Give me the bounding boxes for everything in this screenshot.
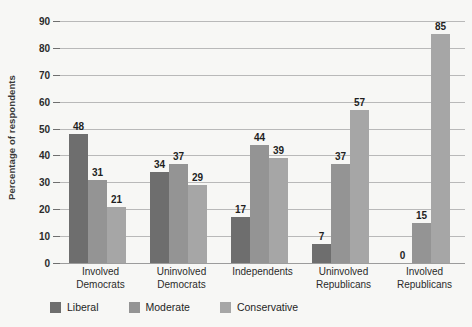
y-tick-mark — [53, 155, 60, 156]
y-tick-label: 0 — [44, 258, 50, 269]
legend-item[interactable]: Moderate — [129, 301, 190, 313]
y-tick-mark — [53, 102, 60, 103]
y-tick-mark — [53, 21, 60, 22]
bar-chart: Percentage of respondents 01020304050607… — [0, 0, 472, 327]
legend-label: Liberal — [67, 301, 99, 313]
legend-item[interactable]: Conservative — [220, 301, 298, 313]
legend-item[interactable]: Liberal — [50, 301, 99, 313]
y-tick-mark — [53, 75, 60, 76]
bar: 39 — [269, 158, 288, 263]
bar-group: 174439 — [231, 21, 288, 263]
bar-value-label: 0 — [400, 250, 406, 261]
bar-value-label: 17 — [235, 204, 246, 215]
bar-value-label: 37 — [173, 151, 184, 162]
x-axis-labels: InvolvedDemocratsUninvolvedDemocratsInde… — [60, 265, 465, 297]
y-tick-label: 60 — [39, 96, 50, 107]
bar-value-label: 31 — [92, 167, 103, 178]
bar-value-label: 7 — [319, 231, 325, 242]
bar: 31 — [88, 180, 107, 263]
bar: 37 — [331, 164, 350, 263]
y-tick-mark — [53, 236, 60, 237]
y-tick-label: 20 — [39, 204, 50, 215]
x-axis-label: UninvolvedRepublicans — [303, 265, 384, 291]
plot-area: 0102030405060708090 48312134372917443973… — [60, 21, 465, 263]
bar: 85 — [431, 34, 450, 263]
bar-value-label: 44 — [254, 132, 265, 143]
bar: 21 — [107, 207, 126, 263]
bar: 34 — [150, 172, 169, 263]
bar-value-label: 37 — [335, 151, 346, 162]
bar-group: 483121 — [69, 21, 126, 263]
legend-label: Moderate — [146, 301, 190, 313]
bar-group: 343729 — [150, 21, 207, 263]
x-axis-label: InvolvedDemocrats — [60, 265, 141, 291]
x-axis-label: UninvolvedDemocrats — [141, 265, 222, 291]
bars-layer: 4831213437291744397375701585 — [60, 21, 465, 263]
x-axis-label: Independents — [222, 265, 303, 278]
legend-swatch — [50, 302, 61, 313]
bar: 7 — [312, 244, 331, 263]
y-axis-title-text: Percentage of respondents — [6, 75, 17, 200]
bar: 15 — [412, 223, 431, 263]
y-tick-label: 10 — [39, 231, 50, 242]
bar: 37 — [169, 164, 188, 263]
y-tick-label: 50 — [39, 123, 50, 134]
y-tick-mark — [53, 48, 60, 49]
y-tick-label: 40 — [39, 150, 50, 161]
y-tick-mark — [53, 129, 60, 130]
legend-swatch — [129, 302, 140, 313]
bar-value-label: 39 — [273, 145, 284, 156]
legend-label: Conservative — [237, 301, 298, 313]
y-tick-mark — [53, 182, 60, 183]
bar-value-label: 48 — [73, 121, 84, 132]
y-axis-title: Percentage of respondents — [0, 0, 22, 275]
legend: LiberalModerateConservative — [50, 300, 298, 314]
legend-swatch — [220, 302, 231, 313]
y-tick-label: 90 — [39, 16, 50, 27]
bar-group: 73757 — [312, 21, 369, 263]
x-axis-label: InvolvedRepublicans — [384, 265, 465, 291]
y-tick-label: 30 — [39, 177, 50, 188]
bar: 44 — [250, 145, 269, 263]
bar-value-label: 15 — [416, 210, 427, 221]
bar-group: 01585 — [393, 21, 450, 263]
bar: 48 — [69, 134, 88, 263]
bar: 29 — [188, 185, 207, 263]
bar: 57 — [350, 110, 369, 263]
y-tick-label: 70 — [39, 69, 50, 80]
bar: 17 — [231, 217, 250, 263]
bar-value-label: 85 — [435, 21, 446, 32]
y-tick-label: 80 — [39, 42, 50, 53]
bar-value-label: 57 — [354, 97, 365, 108]
y-tick-mark — [53, 209, 60, 210]
bar-value-label: 29 — [192, 172, 203, 183]
bar-value-label: 34 — [154, 159, 165, 170]
y-tick-mark — [53, 263, 60, 264]
bar-value-label: 21 — [111, 194, 122, 205]
gridline — [60, 263, 465, 264]
